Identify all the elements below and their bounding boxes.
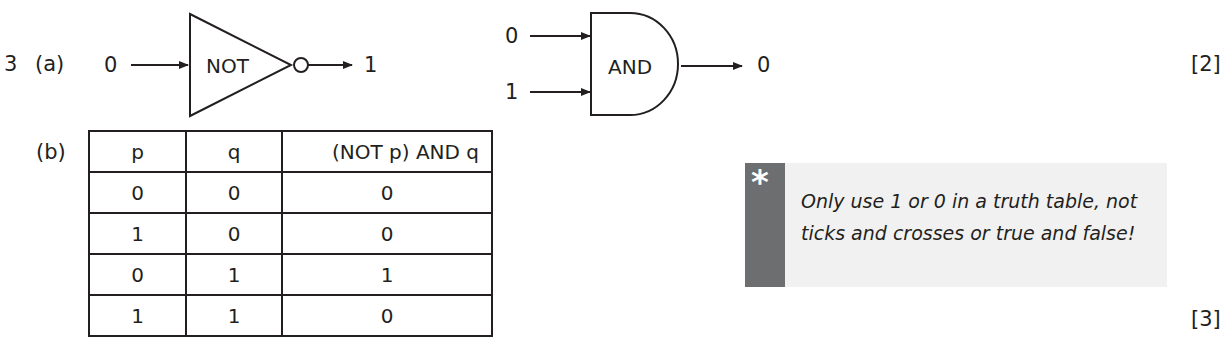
and-gate-label: AND (608, 57, 652, 77)
table-row: 1 1 0 (89, 295, 492, 336)
tip-box: * Only use 1 or 0 in a truth table, not … (745, 163, 1167, 287)
part-b-label: (b) (36, 142, 66, 163)
header-q: q (186, 131, 282, 172)
asterisk-icon: * (751, 165, 769, 199)
and-gate-input-1: 0 (505, 26, 518, 47)
cell-p: 0 (89, 254, 186, 295)
truth-table: p q (NOT p) AND q 0 0 0 1 0 0 0 1 1 1 1 … (88, 130, 493, 337)
cell-result: 0 (282, 295, 492, 336)
not-gate-input: 0 (104, 55, 117, 76)
cell-q: 1 (186, 254, 282, 295)
part-b-marks: [3] (1191, 309, 1221, 330)
table-row: 0 0 0 (89, 172, 492, 213)
cell-q: 0 (186, 213, 282, 254)
header-p: p (89, 131, 186, 172)
cell-q: 1 (186, 295, 282, 336)
table-row: 1 0 0 (89, 213, 492, 254)
not-gate-label: NOT (206, 56, 249, 76)
cell-p: 1 (89, 295, 186, 336)
part-a-marks: [2] (1191, 54, 1221, 75)
header-expression: (NOT p) AND q (282, 131, 492, 172)
and-gate-input-2: 1 (505, 82, 518, 103)
cell-q: 0 (186, 172, 282, 213)
not-gate-output: 1 (364, 55, 377, 76)
tip-bar: * (745, 163, 785, 287)
and-gate-output: 0 (757, 55, 770, 76)
cell-p: 1 (89, 213, 186, 254)
cell-result: 1 (282, 254, 492, 295)
cell-p: 0 (89, 172, 186, 213)
cell-result: 0 (282, 213, 492, 254)
tip-text: Only use 1 or 0 in a truth table, not ti… (801, 185, 1161, 249)
table-row: 0 1 1 (89, 254, 492, 295)
cell-result: 0 (282, 172, 492, 213)
truth-table-header: p q (NOT p) AND q (89, 131, 492, 172)
